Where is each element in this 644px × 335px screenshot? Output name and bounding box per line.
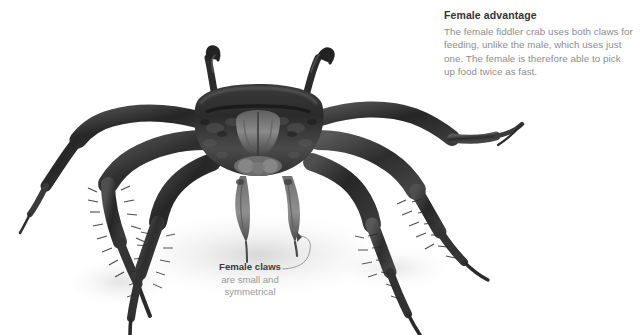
callout-block: Female advantage The female fiddler crab… bbox=[444, 9, 634, 79]
leader-caption-line3: symmetrical bbox=[190, 286, 310, 299]
leader-caption-line2: are small and bbox=[190, 274, 310, 287]
leader-caption-block: Female claws are small and symmetrical bbox=[190, 261, 310, 299]
face-mouthparts bbox=[234, 110, 282, 176]
figure-canvas: Female advantage The female fiddler crab… bbox=[0, 0, 644, 335]
callout-title: Female advantage bbox=[444, 9, 634, 22]
leader-caption-title: Female claws bbox=[190, 261, 310, 274]
callout-body: The female fiddler crab uses both claws … bbox=[444, 25, 634, 79]
